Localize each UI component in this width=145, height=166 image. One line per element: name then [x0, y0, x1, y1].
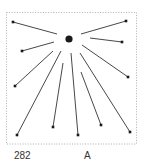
ray-line — [22, 42, 54, 51]
ray-endpoint-dot — [14, 85, 17, 88]
ray-line — [81, 21, 126, 34]
ray-endpoint-dot — [121, 41, 124, 44]
ray-line — [13, 22, 57, 34]
ray-line — [71, 53, 78, 135]
ray-line — [15, 51, 53, 86]
radial-diagram — [0, 0, 145, 166]
ray-endpoint-dot — [129, 131, 132, 134]
ray-line — [53, 63, 63, 127]
ray-endpoint-dot — [77, 134, 80, 137]
figure-number: 282 — [14, 150, 31, 162]
ray-endpoint-dot — [100, 124, 103, 127]
ray-line — [81, 72, 101, 125]
figure-label: A — [84, 150, 91, 162]
ray-endpoint-dot — [12, 21, 15, 24]
center-dot — [65, 35, 72, 42]
ray-line — [82, 45, 128, 77]
ray-endpoint-dot — [21, 50, 24, 53]
ray-endpoint-dot — [52, 126, 55, 129]
dotted-frame — [7, 13, 137, 145]
ray-line — [80, 53, 130, 132]
ray-endpoint-dot — [125, 20, 128, 23]
ray-endpoint-dot — [16, 134, 19, 137]
ray-line — [90, 38, 122, 42]
ray-endpoint-dot — [127, 76, 130, 79]
